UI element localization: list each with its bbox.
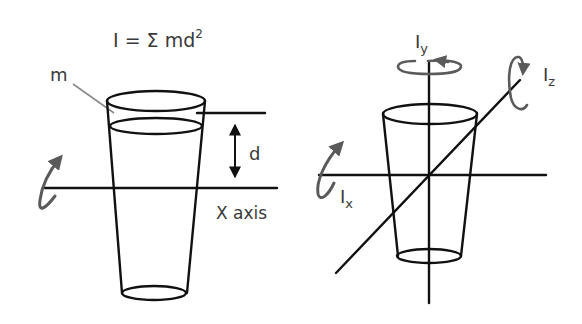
iy-label: Iy xyxy=(415,31,428,56)
glass-rim xyxy=(107,91,205,111)
diagram-svg: I = Σ md2 m d X axis xyxy=(0,0,582,324)
rotation-x-arrow-icon xyxy=(318,144,341,198)
ix-label: Ix xyxy=(340,186,353,211)
distance-label: d xyxy=(249,143,260,164)
glass-side-left xyxy=(383,114,398,256)
mass-layer-ellipse xyxy=(110,118,202,134)
mass-label: m xyxy=(50,64,68,85)
moment-of-inertia-diagram: I = Σ md2 m d X axis xyxy=(0,0,582,324)
iz-label: Iz xyxy=(543,64,555,89)
formula-text: I = Σ md2 xyxy=(113,27,203,51)
right-panel: Iy Iz Ix xyxy=(318,31,556,303)
left-panel: I = Σ md2 m d X axis xyxy=(40,27,277,300)
rotation-arrow-icon xyxy=(40,158,60,208)
x-axis-label: X axis xyxy=(216,203,267,223)
glass-base xyxy=(122,286,186,300)
left-glass xyxy=(107,91,205,300)
glass-side-right xyxy=(461,114,477,256)
